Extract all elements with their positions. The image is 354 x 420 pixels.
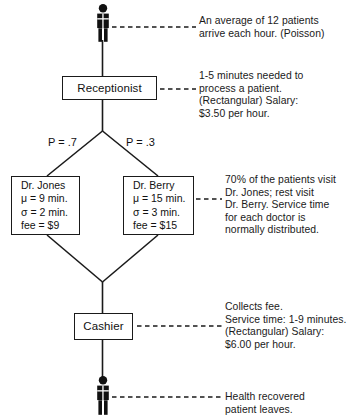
doctor-jones-name: Dr. Jones	[21, 179, 65, 192]
doctor-berry-name: Dr. Berry	[133, 179, 174, 192]
person-icon-arriving-patient	[93, 3, 113, 43]
annotation-arrival: An average of 12 patients arrive each ho…	[199, 15, 354, 40]
annotation-cashier: Collects fee. Service time: 1-9 minutes.…	[225, 301, 354, 351]
doctor-berry-sigma: σ = 3 min.	[133, 206, 180, 219]
person-icon-departing-patient	[93, 375, 113, 417]
doctor-jones-sigma: σ = 2 min.	[21, 206, 68, 219]
branch-probability-left: P = .7	[48, 136, 77, 148]
doctor-berry-fee: fee = $15	[133, 219, 177, 232]
node-receptionist-label: Receptionist	[77, 82, 141, 95]
annotation-doctors: 70% of the patients visit Dr. Jones; res…	[225, 174, 354, 237]
annotation-departure: Health recovered patient leaves.	[225, 391, 354, 416]
node-receptionist[interactable]: Receptionist	[62, 76, 157, 100]
node-cashier-label: Cashier	[83, 320, 123, 333]
flowchart-diagram: Receptionist P = .7 P = .3 Dr. Jones μ =…	[0, 0, 354, 420]
doctor-jones-fee: fee = $9	[21, 219, 59, 232]
annotation-receptionist: 1-5 minutes needed to process a patient.…	[199, 70, 354, 120]
node-cashier[interactable]: Cashier	[74, 313, 133, 340]
doctor-jones-mean: μ = 9 min.	[21, 192, 68, 205]
node-doctor-jones[interactable]: Dr. Jones μ = 9 min. σ = 2 min. fee = $9	[11, 176, 80, 235]
branch-probability-right: P = .3	[126, 136, 155, 148]
flow-line-berry-to-merge	[103, 235, 159, 282]
doctor-berry-mean: μ = 15 min.	[133, 192, 185, 205]
flow-line-jones-to-merge	[47, 235, 103, 282]
node-doctor-berry[interactable]: Dr. Berry μ = 15 min. σ = 3 min. fee = $…	[123, 176, 194, 235]
